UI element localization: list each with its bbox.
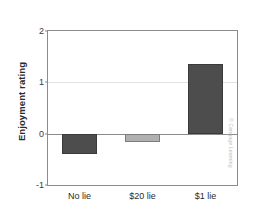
bar-20-lie bbox=[125, 134, 160, 143]
plot-area: 210-1No lie$20 lie$1 lie bbox=[47, 30, 238, 186]
y-tick-mark bbox=[45, 82, 48, 83]
x-tick-label: $20 lie bbox=[129, 191, 156, 201]
attribution-text: © Cengage Learning bbox=[228, 118, 234, 198]
y-tick-mark bbox=[45, 31, 48, 32]
bar-no-lie bbox=[62, 134, 97, 155]
bar-1-lie bbox=[188, 64, 223, 133]
x-tick-label: No lie bbox=[68, 191, 91, 201]
x-tick-label: $1 lie bbox=[195, 191, 217, 201]
y-tick-label: 1 bbox=[39, 77, 44, 87]
chart-figure: Enjoyment rating 210-1No lie$20 lie$1 li… bbox=[0, 0, 265, 215]
y-axis-title: Enjoyment rating bbox=[16, 37, 27, 167]
y-tick-label: 2 bbox=[39, 26, 44, 36]
y-tick-mark bbox=[45, 185, 48, 186]
y-tick-label: -1 bbox=[36, 180, 44, 190]
y-tick-mark bbox=[45, 133, 48, 134]
y-tick-label: 0 bbox=[39, 129, 44, 139]
